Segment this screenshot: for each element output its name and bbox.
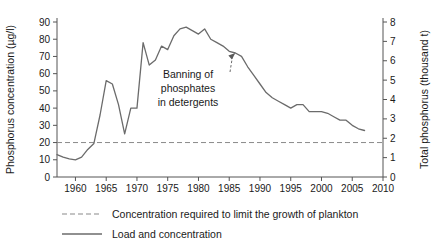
y-tick-label-right-0: 0 — [390, 172, 396, 183]
x-tick-label-1985: 1985 — [218, 183, 241, 194]
y-tick-label-left-50: 50 — [39, 85, 51, 96]
x-tick-label-2000: 2000 — [310, 183, 333, 194]
y-tick-label-right-1: 1 — [390, 152, 396, 163]
x-tick-label-1990: 1990 — [249, 183, 272, 194]
y-tick-label-right-4: 4 — [390, 94, 396, 105]
y-tick-label-left-60: 60 — [39, 68, 51, 79]
y-tick-label-left-90: 90 — [39, 17, 51, 28]
y-tick-label-right-6: 6 — [390, 55, 396, 66]
x-tick-label-1965: 1965 — [95, 183, 118, 194]
x-tick-label-1995: 1995 — [280, 183, 303, 194]
annotation-line-2: in detergents — [158, 96, 219, 108]
x-tick-label-1975: 1975 — [157, 183, 180, 194]
y-axis-left-title: Phosphorus concentration (µg/l) — [4, 25, 16, 174]
x-tick-label-1960: 1960 — [64, 183, 87, 194]
annotation-leader — [230, 57, 232, 72]
annotation-line-1: phosphates — [161, 82, 215, 94]
y-tick-label-left-30: 30 — [39, 120, 51, 131]
y-tick-label-right-3: 3 — [390, 113, 396, 124]
y-tick-label-right-5: 5 — [390, 75, 396, 86]
y-axis-right-title: Total phosphorus (thousand t) — [418, 30, 430, 169]
annotation-arrowhead — [228, 53, 235, 60]
y-tick-label-left-10: 10 — [39, 154, 51, 165]
x-tick-label-2005: 2005 — [341, 183, 364, 194]
chart-figure: 0102030405060708090012345678196019651970… — [0, 0, 437, 250]
annotation-line-0: Banning of — [163, 68, 213, 80]
x-tick-label-1970: 1970 — [126, 183, 149, 194]
phosphorus-line-chart: 0102030405060708090012345678196019651970… — [0, 0, 437, 250]
x-tick-label-2010: 2010 — [372, 183, 395, 194]
y-tick-label-right-7: 7 — [390, 36, 396, 47]
legend-label-0: Concentration required to limit the grow… — [112, 208, 358, 220]
y-tick-label-left-70: 70 — [39, 51, 51, 62]
y-tick-label-left-0: 0 — [44, 172, 50, 183]
y-tick-label-left-80: 80 — [39, 34, 51, 45]
legend-label-1: Load and concentration — [112, 228, 222, 240]
y-tick-label-right-8: 8 — [390, 17, 396, 28]
y-tick-label-right-2: 2 — [390, 133, 396, 144]
x-tick-label-1980: 1980 — [187, 183, 210, 194]
y-tick-label-left-20: 20 — [39, 137, 51, 148]
y-tick-label-left-40: 40 — [39, 103, 51, 114]
